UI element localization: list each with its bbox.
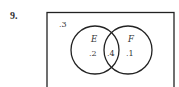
outside-value: .3	[59, 20, 67, 29]
set-f-only-value: .1	[126, 49, 134, 58]
set-f-label: F	[127, 34, 135, 44]
venn-diagram: .3 E .2 .4 F .1	[0, 0, 179, 87]
set-e-label: E	[90, 34, 98, 44]
intersection-value: .4	[107, 49, 115, 58]
set-e-only-value: .2	[89, 49, 97, 58]
